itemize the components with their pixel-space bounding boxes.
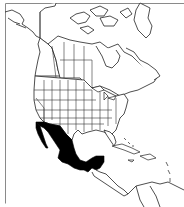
hispaniola: [140, 154, 156, 160]
north-america-map: [0, 0, 184, 207]
arctic-islands: [70, 6, 132, 34]
cuba: [112, 144, 140, 154]
jamaica: [128, 160, 134, 162]
greenland: [134, 3, 152, 38]
lesser-antilles: [166, 162, 170, 182]
central-america: [92, 170, 128, 196]
south-america: [128, 182, 184, 207]
florida: [104, 130, 116, 146]
bahamas: [124, 138, 134, 146]
range-map: [0, 0, 184, 207]
